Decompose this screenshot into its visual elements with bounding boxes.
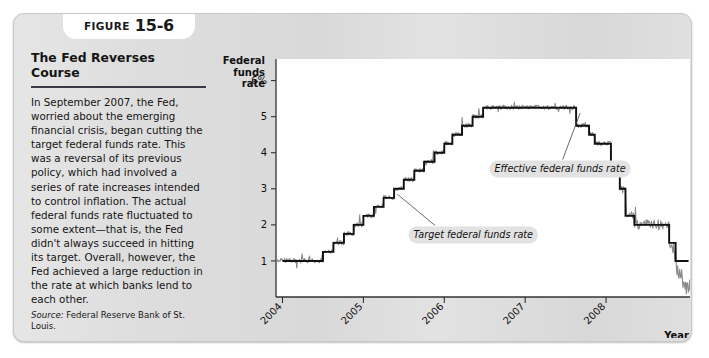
caption-title: The Fed Reverses Course xyxy=(31,50,206,80)
figure-panel: FIGURE 15-6 The Fed Reverses Course In S… xyxy=(13,13,692,342)
figure-badge-number: 15-6 xyxy=(135,16,174,35)
svg-text:Federal: Federal xyxy=(223,55,265,66)
chart-area: Federalfundsrate123456%20042005200620072… xyxy=(210,48,690,338)
svg-text:2007: 2007 xyxy=(501,301,527,327)
svg-text:Effective federal funds rate: Effective federal funds rate xyxy=(494,163,625,174)
figure-badge-word: FIGURE xyxy=(84,20,130,32)
caption-divider xyxy=(31,86,206,88)
caption-body-text: In September 2007, the Fed, worried abou… xyxy=(31,95,206,306)
svg-text:Target federal funds rate: Target federal funds rate xyxy=(414,229,534,240)
svg-text:2008: 2008 xyxy=(582,301,608,327)
source-label: Source: xyxy=(31,310,64,320)
svg-text:5: 5 xyxy=(261,111,267,122)
figure-number-badge: FIGURE 15-6 xyxy=(63,13,195,39)
caption-source: Source: Federal Reserve Bank of St. Loui… xyxy=(31,310,206,331)
svg-text:2: 2 xyxy=(261,219,267,230)
svg-text:1: 1 xyxy=(261,256,267,267)
svg-text:2006: 2006 xyxy=(420,301,446,327)
svg-text:2004: 2004 xyxy=(258,301,284,327)
svg-text:Year: Year xyxy=(663,330,689,338)
caption-block: The Fed Reverses Course In September 200… xyxy=(31,50,206,331)
svg-text:2005: 2005 xyxy=(339,301,365,327)
svg-text:3: 3 xyxy=(261,183,267,194)
svg-text:6%: 6% xyxy=(251,75,267,86)
fed-funds-rate-chart: Federalfundsrate123456%20042005200620072… xyxy=(210,48,690,338)
svg-text:4: 4 xyxy=(261,147,267,158)
